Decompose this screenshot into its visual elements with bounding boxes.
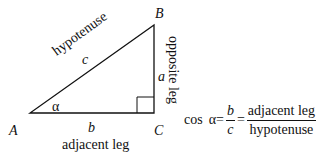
right-triangle xyxy=(30,25,154,113)
opposite-leg-label: opposite leg xyxy=(166,36,180,104)
formula-angle: α xyxy=(209,112,216,128)
side-c-label: c xyxy=(82,53,88,67)
vertex-b-label: B xyxy=(155,7,164,21)
vertex-c-label: C xyxy=(154,124,163,138)
angle-alpha-label: α xyxy=(52,100,59,114)
right-angle-marker xyxy=(137,97,154,113)
side-a-label: a xyxy=(158,70,165,84)
ratio-numerator: b xyxy=(226,103,235,121)
ratio-denominator: c xyxy=(227,121,233,138)
side-b-label: b xyxy=(88,121,95,135)
equals-sign-1: = xyxy=(216,112,224,128)
word-denominator: hypotenuse xyxy=(250,121,314,138)
equals-sign-2: = xyxy=(237,112,245,128)
adjacent-leg-label: adjacent leg xyxy=(62,138,129,152)
vertex-a-label: A xyxy=(9,124,18,138)
word-numerator: adjacent leg xyxy=(247,103,316,121)
word-ratio: adjacent leg hypotenuse xyxy=(247,103,316,138)
cos-function: cos xyxy=(184,112,203,128)
ratio-b-over-c: b c xyxy=(226,103,235,138)
cosine-formula: cos α = b c = adjacent leg hypotenuse xyxy=(184,100,318,140)
